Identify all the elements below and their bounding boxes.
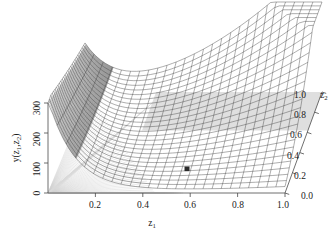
y-tick-label-100: 100 xyxy=(32,162,42,177)
y-axis-title-main: y(z xyxy=(11,150,22,162)
x-tick-label-1-0: 1.0 xyxy=(277,200,289,210)
x-axis-title-sub: 1 xyxy=(152,222,155,229)
z-tick-label-1-0: 1.0 xyxy=(294,90,306,100)
y-axis-ticks xyxy=(44,103,48,193)
z-tick-label-0-8: 0.8 xyxy=(294,110,306,120)
y-tick-label-200: 200 xyxy=(32,132,42,147)
svg-text:y(z1,z2): y(z1,z2) xyxy=(11,134,22,163)
x-tick-label-0-4: 0.4 xyxy=(137,200,149,210)
surface-left-flank-shading xyxy=(49,44,113,158)
y-axis-title: y(z1,z2) xyxy=(11,134,22,163)
surface-plot-figure: 0 100 200 300 y(z1,z2) 0.2 0.4 0.6 0.8 1… xyxy=(0,0,336,238)
z-tick-label-0-4: 0.4 xyxy=(287,151,299,161)
z-tick-label-0-2: 0.2 xyxy=(294,171,306,181)
x-tick-label-0-6: 0.6 xyxy=(184,200,196,210)
z-tick-label-0-6: 0.6 xyxy=(290,130,302,140)
x-tick-label-0-2: 0.2 xyxy=(89,200,101,210)
z-axis-title: z2 xyxy=(320,90,328,101)
y-tick-label-0: 0 xyxy=(32,190,42,195)
z-axis-title-sub: 2 xyxy=(324,94,328,101)
x-axis-ticks xyxy=(95,193,285,197)
z-tick-label-0-0: 0.0 xyxy=(301,191,313,201)
plot-canvas: 0 100 200 300 y(z1,z2) 0.2 0.4 0.6 0.8 1… xyxy=(0,0,336,238)
x-axis-title: z1 xyxy=(148,218,156,229)
optimum-point-marker xyxy=(185,167,190,172)
y-tick-label-300: 300 xyxy=(32,101,42,116)
y-axis-title-end: ) xyxy=(11,134,22,137)
y-axis-title-mid: ,z xyxy=(11,140,21,147)
x-tick-label-0-8: 0.8 xyxy=(232,200,244,210)
